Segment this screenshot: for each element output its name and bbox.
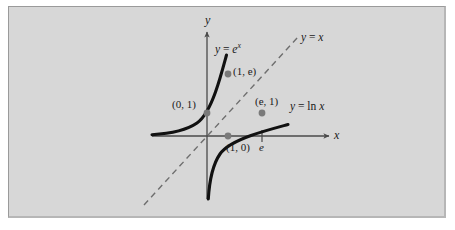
identity-curve-label: y = x (301, 32, 323, 44)
exponential-exponent: x (237, 41, 240, 50)
point-label-1-0: (1, 0) (226, 142, 250, 153)
point-marker-e-1 (259, 110, 266, 117)
point-marker-1-0 (225, 133, 232, 140)
point-label-0-1: (0, 1) (172, 99, 196, 110)
x-axis-label: x (334, 129, 339, 141)
y-axis-label: y (205, 14, 210, 26)
point-label-e-1: (e, 1) (255, 96, 278, 107)
graph-canvas (0, 0, 455, 230)
exponential-curve (152, 55, 227, 135)
identity-line (144, 37, 298, 205)
exponential-curve-label: y = ex (215, 44, 241, 56)
point-marker-0-1 (204, 110, 211, 117)
point-label-1-e: (1, e) (233, 66, 256, 77)
figure-root: y x y = ex y = ln x y = x (0, 1) (1, e) … (0, 0, 455, 230)
x-tick-label-e: e (259, 142, 264, 153)
logarithm-curve-label: y = ln x (290, 101, 324, 113)
point-marker-1-e (225, 71, 232, 78)
